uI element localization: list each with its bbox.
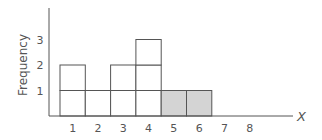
bar-box-4-2	[136, 65, 161, 91]
bar-box-4-3	[136, 40, 161, 66]
y-tick-1: 1	[37, 85, 44, 98]
bar-box-4-1	[136, 91, 161, 117]
bar-box-6-1	[187, 91, 212, 117]
bar-box-3-2	[111, 65, 136, 91]
y-axis-label: Frequency	[16, 34, 30, 96]
x-axis-label: X	[296, 109, 307, 124]
bar-box-2-1	[85, 91, 110, 117]
x-tick-4: 4	[145, 122, 152, 135]
x-tick-6: 6	[196, 122, 203, 135]
bar-box-5-1	[161, 91, 186, 117]
x-tick-3: 3	[120, 122, 127, 135]
x-tick-labels: 12345678	[69, 122, 253, 135]
y-tick-3: 3	[37, 34, 44, 47]
x-tick-1: 1	[69, 122, 76, 135]
x-tick-8: 8	[246, 122, 253, 135]
x-tick-5: 5	[170, 122, 177, 135]
bar-box-1-2	[60, 65, 85, 91]
y-tick-2: 2	[37, 59, 44, 72]
bar-box-1-1	[60, 91, 85, 117]
histogram-chart: 123 12345678 Frequency X	[0, 0, 322, 140]
bars-group	[60, 40, 212, 117]
bar-box-3-1	[111, 91, 136, 117]
y-tick-labels: 123	[37, 34, 44, 98]
x-tick-2: 2	[94, 122, 101, 135]
x-tick-7: 7	[221, 122, 228, 135]
